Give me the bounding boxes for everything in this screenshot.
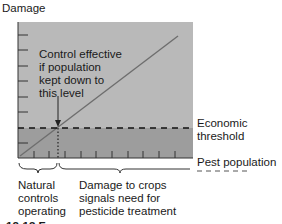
region-left-line-2: controls: [18, 192, 58, 205]
natural-controls-brace: [19, 163, 57, 173]
region-left-line-1: Natural: [18, 179, 55, 192]
region-right-line-2: signals need for: [79, 192, 160, 205]
figure-caption-partial: 12-13 F: [6, 220, 46, 224]
region-left-line-3: operating: [18, 205, 66, 218]
damage-region-brace: [59, 163, 190, 173]
region-right-line-3: pesticide treatment: [79, 205, 176, 218]
annotation-line-3: kept down to: [39, 74, 104, 87]
annotation-line-1: Control effective: [39, 48, 122, 61]
economic-threshold-label-1: Economic: [197, 117, 248, 130]
y-axis-label: Damage: [2, 2, 45, 15]
annotation-line-4: this level: [39, 87, 84, 100]
plot-lower-region: [18, 128, 193, 158]
economic-threshold-label-2: threshold: [197, 130, 244, 143]
region-right-line-1: Damage to crops: [79, 179, 167, 192]
annotation-line-2: if population: [39, 61, 101, 74]
x-axis-label: Pest population: [197, 156, 276, 169]
